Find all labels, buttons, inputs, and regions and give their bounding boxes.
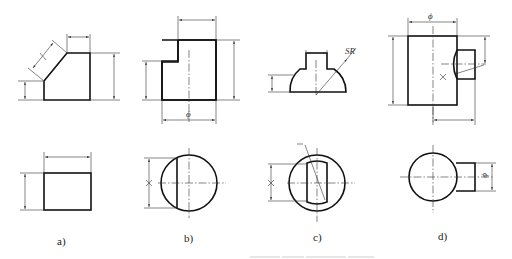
panel-a-front-view	[18, 34, 120, 100]
panel-c-label: c)	[313, 231, 322, 244]
panel-b-label: b)	[184, 232, 194, 245]
panel-c-top-view	[268, 144, 355, 222]
technical-drawing: a) ϕ b)	[0, 0, 512, 259]
figure-caption-faint	[250, 247, 430, 253]
panel-b-front-view: ϕ	[142, 16, 240, 124]
panel-c-front-view: SR	[268, 46, 356, 96]
panel-a-top-view	[20, 152, 91, 210]
panel-d-label: d)	[438, 230, 448, 243]
panel-a-label: a)	[57, 235, 66, 248]
diameter-symbol: ϕ	[186, 109, 191, 119]
spherical-radius-symbol: SR	[345, 46, 356, 56]
diameter-symbol-top: ϕ	[428, 11, 433, 21]
diameter-symbol-side: ϕ	[481, 173, 491, 178]
panel-d-top-view: ϕ	[400, 145, 496, 213]
panel-b-top-view	[144, 148, 226, 218]
panel-d-front-view: ϕ	[388, 11, 490, 125]
